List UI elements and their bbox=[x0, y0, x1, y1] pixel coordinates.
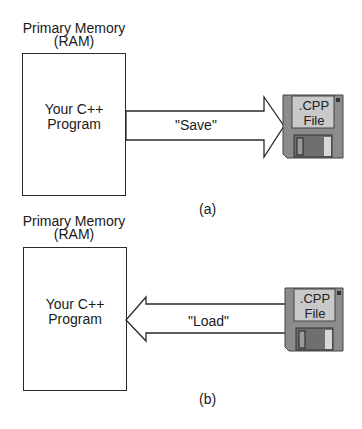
disk-label-line2: File bbox=[295, 306, 335, 321]
floppy-disk-icon bbox=[0, 0, 362, 429]
disk-label-line1: .CPP bbox=[295, 291, 335, 306]
disk-label: .CPP File bbox=[295, 291, 335, 321]
caption-b: (b) bbox=[199, 391, 216, 407]
